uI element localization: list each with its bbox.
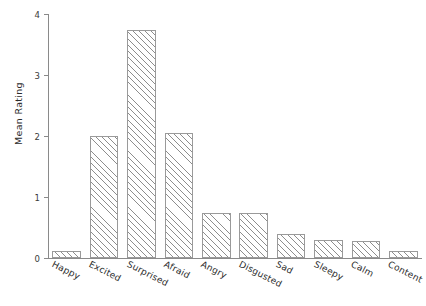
bar — [239, 213, 267, 258]
y-axis-tick-label: 3 — [35, 71, 40, 80]
x-axis-tick-label: Content — [387, 259, 425, 285]
x-axis-tick-labels: HappyExcitedSurprisedAfraidAngryDisguste… — [48, 259, 422, 306]
bar — [277, 234, 305, 258]
bar — [389, 251, 417, 258]
x-axis-tick-label: Excited — [88, 259, 123, 284]
y-axis-tick: 1 — [44, 197, 49, 198]
y-axis-tick-label: 0 — [35, 254, 40, 263]
y-axis-tick: 3 — [44, 75, 49, 76]
y-axis-tick: 2 — [44, 136, 49, 137]
bars-layer — [48, 14, 422, 258]
y-axis-title: Mean Rating — [13, 54, 24, 174]
x-axis-tick-label: Surprised — [125, 259, 169, 288]
bar — [52, 251, 80, 258]
y-axis-tick-label: 2 — [35, 132, 40, 141]
bar — [314, 240, 342, 258]
x-axis-tick-label: Calm — [349, 259, 375, 279]
x-axis-tick-label: Sleepy — [312, 259, 345, 282]
bar — [352, 241, 380, 258]
x-axis-tick-label: Sad — [275, 259, 295, 276]
bar — [90, 136, 118, 258]
y-axis-tick: 4 — [44, 14, 49, 15]
x-axis-tick-label: Angry — [200, 259, 229, 280]
y-axis-tick-label: 4 — [35, 10, 40, 19]
bar — [127, 30, 155, 258]
bar — [165, 133, 193, 258]
plot-area: 01234 — [48, 14, 422, 258]
bar-chart: Mean Rating 01234 HappyExcitedSurprisedA… — [0, 0, 426, 306]
x-axis-tick-label: Happy — [50, 259, 81, 282]
bar — [202, 213, 230, 258]
y-axis-tick-label: 1 — [35, 193, 40, 202]
